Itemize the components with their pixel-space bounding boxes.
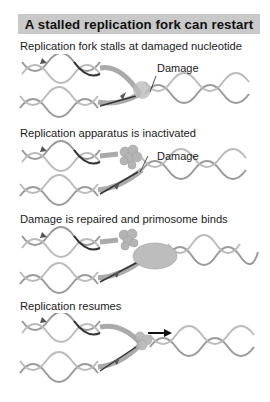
replisome-icon <box>135 332 152 350</box>
figure-title-bar: A stalled replication fork can restart <box>18 14 260 34</box>
panel-4-diagram <box>0 313 270 393</box>
parent-helix <box>145 73 249 103</box>
figure-title: A stalled replication fork can restart <box>25 17 253 32</box>
panel-2-diagram <box>0 140 270 212</box>
primosome-icon <box>133 243 177 269</box>
inactive-replisome-icon <box>120 145 142 169</box>
panel-1-diagram <box>0 54 270 124</box>
leading-arrow-icon <box>40 58 47 64</box>
lower-helix <box>20 87 140 117</box>
panel-3-caption: Damage is repaired and primosome binds <box>20 213 228 225</box>
upper-helix <box>22 54 140 94</box>
panel-4-caption: Replication resumes <box>20 300 121 312</box>
damage-label-2: Damage <box>157 150 199 162</box>
damage-label-1: Damage <box>157 62 199 74</box>
panel-1-caption: Replication fork stalls at damaged nucle… <box>20 40 242 52</box>
replisome-icon <box>133 81 151 99</box>
panel-3-diagram <box>0 226 270 298</box>
panel-2-caption: Replication apparatus is inactivated <box>20 127 196 139</box>
inactive-replisome-icon <box>119 229 138 250</box>
